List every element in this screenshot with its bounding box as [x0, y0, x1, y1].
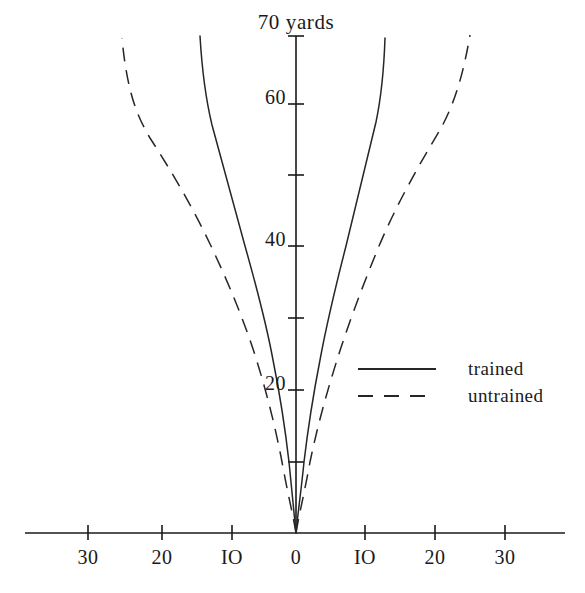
x-axis-label-plus10: IO	[354, 546, 376, 569]
x-axis-label-plus20: 20	[425, 546, 446, 569]
legend-label-trained: trained	[468, 358, 524, 380]
y-axis-label-60: 60	[265, 86, 286, 109]
x-axis-label-minus20: 20	[152, 546, 173, 569]
y-axis-label-20: 20	[265, 372, 286, 395]
x-axis-label-minus30: 30	[78, 546, 99, 569]
legend-label-untrained: untrained	[468, 385, 543, 407]
chart-plot-area	[0, 0, 585, 593]
curve-untrained-right	[296, 35, 470, 533]
curve-trained-right	[296, 38, 385, 533]
chart-title: 70 yards	[258, 10, 335, 35]
y-axis-label-40: 40	[265, 228, 286, 251]
x-axis-label-plus30: 30	[495, 546, 516, 569]
dispersion-chart: 70 yards 60 40 20 30 20 IO 0 IO 20 30 tr…	[0, 0, 585, 593]
x-axis-label-origin: 0	[291, 546, 302, 569]
x-axis-label-minus10: IO	[221, 546, 243, 569]
